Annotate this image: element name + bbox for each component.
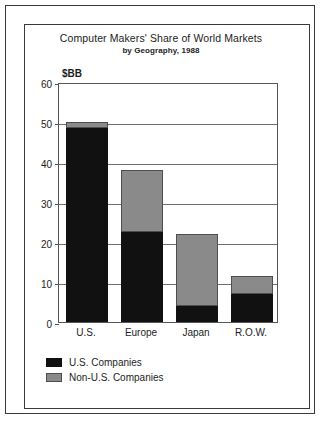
- y-axis-tick: [55, 284, 59, 285]
- bar-column[interactable]: [121, 82, 163, 322]
- legend-item[interactable]: U.S. Companies: [46, 355, 163, 370]
- bar-segment-non-us-companies[interactable]: [231, 276, 273, 294]
- bar-column[interactable]: [176, 82, 218, 322]
- black-swatch: [46, 358, 62, 367]
- chart-title: Computer Makers' Share of World Markets: [0, 32, 322, 44]
- y-axis-tick: [55, 244, 59, 245]
- y-axis-tick-label: 0: [46, 319, 52, 330]
- x-axis-tick-label: R.O.W.: [230, 327, 272, 338]
- y-axis-tick-label: 30: [41, 199, 52, 210]
- y-axis-tick: [55, 164, 59, 165]
- x-axis-tick-label: Europe: [120, 327, 162, 338]
- bar-column[interactable]: [231, 82, 273, 322]
- bar-column[interactable]: [66, 82, 108, 322]
- bar-segment-us-companies[interactable]: [66, 128, 108, 322]
- chart-subtitle: by Geography, 1988: [0, 46, 322, 55]
- y-axis-tick-label: 60: [41, 79, 52, 90]
- x-axis-tick-label: U.S.: [65, 327, 107, 338]
- y-axis-unit-label: $BB: [62, 68, 82, 79]
- bar-segment-non-us-companies[interactable]: [176, 234, 218, 306]
- y-axis-tick: [55, 124, 59, 125]
- legend-item-label: Non-U.S. Companies: [69, 372, 163, 383]
- legend-item-label: U.S. Companies: [69, 357, 142, 368]
- y-axis-tick-label: 40: [41, 159, 52, 170]
- legend-item[interactable]: Non-U.S. Companies: [46, 370, 163, 385]
- y-axis-tick: [55, 324, 59, 325]
- bar-segment-us-companies[interactable]: [176, 306, 218, 322]
- gray-swatch: [46, 373, 62, 382]
- bar-segment-us-companies[interactable]: [121, 232, 163, 322]
- y-axis-tick: [55, 84, 59, 85]
- bar-segment-non-us-companies[interactable]: [66, 122, 108, 128]
- plot-area: 6050403020100: [58, 83, 278, 323]
- chart-legend: U.S. CompaniesNon-U.S. Companies: [46, 355, 163, 385]
- bar-segment-us-companies[interactable]: [231, 294, 273, 322]
- bar-segment-non-us-companies[interactable]: [121, 170, 163, 232]
- y-axis-tick-label: 20: [41, 239, 52, 250]
- y-axis-tick-label: 50: [41, 119, 52, 130]
- y-axis-tick: [55, 204, 59, 205]
- y-axis-tick-label: 10: [41, 279, 52, 290]
- x-axis-tick-label: Japan: [175, 327, 217, 338]
